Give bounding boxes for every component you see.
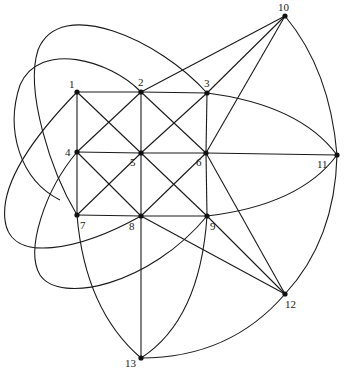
node-11: [334, 152, 339, 157]
edge-3-6: [206, 93, 207, 153]
node-1: [74, 89, 79, 94]
node-label-7: 7: [80, 219, 86, 231]
edge-3-10: [207, 16, 285, 93]
edge-2-7: [14, 59, 141, 200]
node-label-3: 3: [204, 77, 210, 89]
node-8: [138, 213, 143, 218]
node-label-1: 1: [69, 78, 75, 90]
node-7: [74, 212, 79, 217]
edge-2-3: [141, 92, 207, 93]
node-label-2: 2: [138, 76, 144, 88]
node-label-13: 13: [125, 357, 137, 369]
node-3: [204, 90, 209, 95]
node-label-4: 4: [65, 146, 71, 158]
node-5: [138, 150, 143, 155]
node-2: [138, 89, 143, 94]
node-10: [282, 13, 287, 18]
edge-9-12: [207, 216, 285, 294]
node-label-8: 8: [129, 220, 135, 232]
edge-7-8: [77, 215, 141, 216]
edge-12-13: [141, 294, 285, 358]
edge-1-8: [5, 92, 141, 248]
node-label-5: 5: [130, 156, 136, 168]
node-12: [282, 291, 287, 296]
node-4: [74, 149, 79, 154]
node-6: [203, 150, 208, 155]
edge-4-5: [77, 152, 141, 153]
node-label-12: 12: [285, 298, 296, 310]
edge-11-12: [285, 155, 337, 294]
edge-3-7: [34, 25, 207, 215]
edge-9-13: [141, 216, 207, 358]
graph-diagram: 12345678910111213: [0, 0, 344, 371]
edge-10-11: [285, 16, 337, 155]
node-label-11: 11: [317, 158, 328, 170]
edge-6-9: [206, 153, 207, 216]
node-label-9: 9: [210, 220, 216, 232]
edge-3-11: [207, 93, 337, 155]
edge-6-11: [206, 153, 337, 155]
edge-7-13: [77, 215, 141, 358]
node-label-10: 10: [278, 1, 290, 13]
node-9: [204, 213, 209, 218]
node-13: [138, 355, 143, 360]
node-label-6: 6: [196, 156, 202, 168]
